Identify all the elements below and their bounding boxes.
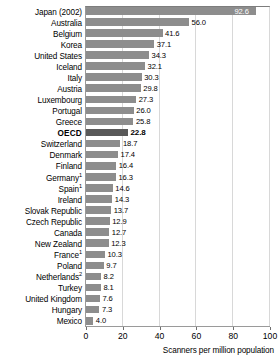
category-label: OECD [58,129,82,138]
bar [86,206,111,214]
bar-row: Portugal26.0 [0,106,280,117]
bar [86,84,141,92]
bar [86,118,133,126]
category-label: Austria [57,85,82,94]
category-label: Switzerland [41,140,82,149]
x-tick-label: 100 [263,331,277,341]
bar-row: Canada12.7 [0,227,280,238]
category-label: Poland [57,262,82,271]
bar-row: Czech Republic12.9 [0,216,280,227]
bar-row: United Kingdom7.6 [0,294,280,305]
bar [86,228,109,236]
bar-value-label: 17.4 [121,151,135,159]
bar [86,184,113,192]
bar [86,129,128,137]
category-label: Denmark [49,151,82,160]
bar-row: Italy30.3 [0,72,280,83]
category-label: Turkey [58,284,82,293]
bar-value-label: 30.3 [144,74,158,82]
bar [86,151,118,159]
bar-row: Germany116.3 [0,172,280,183]
bar-row: Denmark17.4 [0,150,280,161]
bar-row: Hungary7.3 [0,305,280,316]
bar-value-label: 32.1 [148,63,162,71]
bar-value-label: 7.6 [102,295,112,303]
category-label: Luxembourg [37,96,82,105]
bar-value-label: 27.3 [139,96,153,104]
bar-value-label: 12.3 [111,240,125,248]
bar [86,239,109,247]
bar-value-label: 9.7 [106,262,116,270]
x-tick-mark [160,327,161,330]
bar-value-label: 4.0 [96,317,106,325]
bar [86,51,149,59]
bar-value-label: 34.3 [152,52,166,60]
bar [86,273,101,281]
x-tick-label: 40 [155,331,165,341]
bar-value-label: 26.0 [136,107,150,115]
bar-row: Netherlands28.2 [0,272,280,283]
category-label: United States [34,51,82,60]
bar [86,29,163,37]
bar [86,40,154,48]
bar-value-label: 29.8 [143,85,157,93]
bar-value-label: 12.7 [112,229,126,237]
bar-value-label: 56.0 [192,19,206,27]
bar-row: Korea37.1 [0,39,280,50]
category-label: France1 [54,251,82,260]
bar-row: Spain114.6 [0,183,280,194]
x-axis: 020406080100 [0,328,280,342]
bar-row: Turkey8.1 [0,283,280,294]
category-label: Portugal [52,107,82,116]
bar [86,162,116,170]
bar-chart: Japan (2002)92.6Australia56.0Belgium41.6… [0,0,280,363]
bar [86,62,145,70]
bar-value-label: 10.3 [107,251,121,259]
bar-value-label: 25.8 [136,118,150,126]
x-tick-mark [233,327,234,330]
bar-value-label: 41.6 [165,30,179,38]
bar [86,195,112,203]
bar [86,217,110,225]
footnote-marker: 1 [79,182,82,188]
bar [86,295,100,303]
category-label: Spain1 [59,184,82,193]
bar-row: Switzerland18.7 [0,139,280,150]
bar [86,262,104,270]
bar-row: Poland9.7 [0,261,280,272]
bar-row: Belgium41.6 [0,28,280,39]
bar [86,317,93,325]
footnote-marker: 1 [79,171,82,177]
category-label: Finland [56,162,82,171]
x-tick-label: 0 [84,331,89,341]
bar-row: Luxembourg27.3 [0,95,280,106]
bar [86,73,142,81]
bar-row: Finland16.4 [0,161,280,172]
bar [86,107,134,115]
category-label: New Zealand [35,239,82,248]
category-label: Iceland [56,62,82,71]
x-tick-label: 60 [192,331,202,341]
bar [86,7,256,15]
bar-value-label: 37.1 [157,41,171,49]
category-label: Mexico [57,317,82,326]
bar-row: Iceland32.1 [0,61,280,72]
bar [86,306,99,314]
bar-value-label: 8.2 [104,273,114,281]
bar-value-label: 16.4 [119,162,133,170]
x-tick-label: 20 [118,331,128,341]
x-tick-mark [196,327,197,330]
category-label: Korea [61,40,82,49]
bar-row: Austria29.8 [0,83,280,94]
category-label: United Kingdom [25,295,82,304]
bar-value-label: 14.3 [115,196,129,204]
x-axis-title: Scanners per million population [163,346,274,356]
x-tick-label: 80 [228,331,238,341]
bar-value-label: 13.7 [114,207,128,215]
category-label: Australia [51,18,82,27]
category-label: Germany1 [46,173,82,182]
bar-row: New Zealand12.3 [0,238,280,249]
bar-value-label: 16.3 [118,174,132,182]
category-label: Japan (2002) [35,7,82,16]
category-label: Italy [67,73,82,82]
